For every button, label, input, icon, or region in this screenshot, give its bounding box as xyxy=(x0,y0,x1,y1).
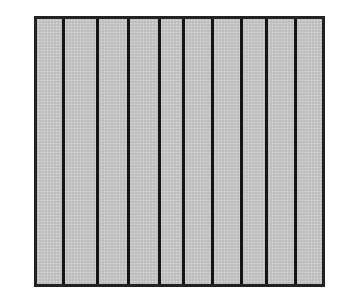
divider-line-3 xyxy=(127,19,130,284)
divider-line-8 xyxy=(265,19,268,284)
divider-line-1 xyxy=(62,19,65,284)
divider-line-2 xyxy=(96,19,99,284)
divider-line-7 xyxy=(240,19,243,284)
divider-line-5 xyxy=(182,19,185,284)
divider-line-4 xyxy=(158,19,161,284)
divider-line-6 xyxy=(211,19,214,284)
divided-rectangle xyxy=(34,16,325,287)
divider-line-9 xyxy=(294,19,297,284)
